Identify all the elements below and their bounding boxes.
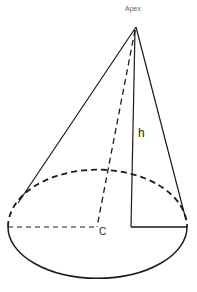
height-line [131, 30, 135, 227]
right-slant-edge [136, 27, 186, 220]
center-label: C [99, 226, 106, 237]
height-label: h [138, 126, 145, 140]
left-slant-edge [18, 27, 136, 203]
apex-to-center-dashed [97, 30, 135, 227]
apex-label: Apex [125, 5, 141, 12]
cone-diagram [0, 0, 197, 292]
base-ellipse-front [8, 227, 187, 278]
